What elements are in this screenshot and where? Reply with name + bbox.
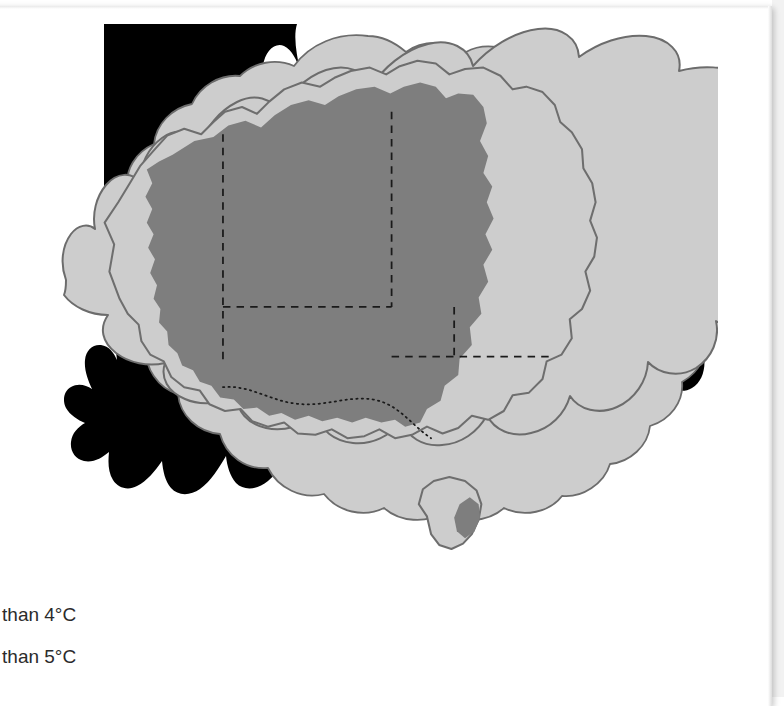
page-right-edge [768,6,772,706]
australia-map-final-svg [38,24,718,696]
page-top-edge [0,6,772,9]
page-outside-margin [772,0,784,697]
dark-band-group [145,83,493,539]
document-page: re house 1 3°C rease , cur any 3 to less… [0,6,772,706]
australia-climate-map [38,24,718,696]
